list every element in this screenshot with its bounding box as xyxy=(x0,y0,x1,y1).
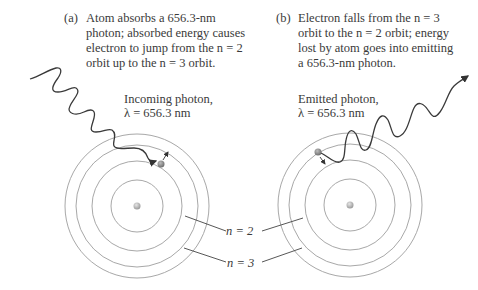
caption-a-line-2: photon; absorbed energy causes xyxy=(86,26,286,41)
electron xyxy=(158,161,165,168)
caption-b-line-3: lost by atom goes into emitting xyxy=(298,41,478,56)
caption-a-line-4: orbit up to the n = 3 orbit. xyxy=(86,56,286,71)
orbit-label-n3-text: n = 3 xyxy=(227,256,254,270)
nucleus xyxy=(347,202,354,209)
emitted-photon-label: Emitted photon, λ = 656.3 nm xyxy=(298,92,379,120)
leader-n3-right xyxy=(262,248,302,262)
jump-arrow xyxy=(163,152,168,160)
caption-b-tag: (b) xyxy=(276,11,291,26)
orbit-label-n2-text: n = 2 xyxy=(226,224,253,238)
caption-b-line-1: Electron falls from the n = 3 xyxy=(298,11,478,26)
orbit-label-n2: n = 2 xyxy=(226,224,253,238)
caption-a-line-1: Atom absorbs a 656.3-nm xyxy=(86,11,286,26)
emitted-photon-label-line-1: Emitted photon, xyxy=(298,92,379,106)
nucleus xyxy=(134,203,141,210)
orbit-label-n3: n = 3 xyxy=(227,256,254,270)
caption-a-tag: (a) xyxy=(64,11,78,26)
caption-b-line-4: a 656.3-nm photon. xyxy=(298,56,478,71)
incoming-photon-wavelength: λ = 656.3 nm xyxy=(124,106,213,120)
caption-a-line-3: electron to jump from the n = 2 xyxy=(86,41,286,56)
fall-arrow xyxy=(320,157,325,164)
incoming-photon-label: Incoming photon, λ = 656.3 nm xyxy=(124,92,213,120)
caption-b-line-2: orbit to the n = 2 orbit; energy xyxy=(298,26,478,41)
electron xyxy=(315,149,322,156)
incoming-photon-label-line-1: Incoming photon, xyxy=(124,92,213,106)
emitted-photon-wavelength: λ = 656.3 nm xyxy=(298,106,379,120)
